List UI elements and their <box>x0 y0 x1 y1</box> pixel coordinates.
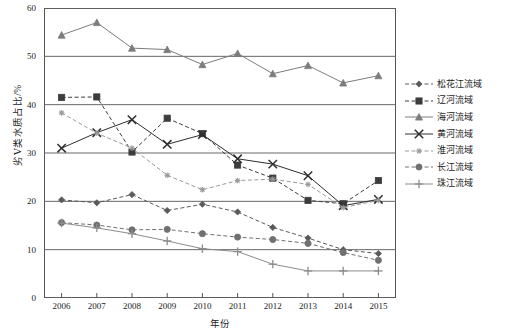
legend-label: 长江流域 <box>437 163 473 172</box>
x-tick-label: 2006 <box>42 301 82 311</box>
chart-figure: 劣Ⅴ类水质占比/% 年份 0102030405060 2006200720082… <box>0 0 515 336</box>
y-tick-label: 10 <box>10 245 36 255</box>
data-point <box>199 231 205 237</box>
data-point <box>305 182 311 188</box>
data-point <box>94 130 100 136</box>
legend-label: 珠江流域 <box>437 179 473 188</box>
legend-item-3[interactable]: 黄河流域 <box>404 126 515 143</box>
data-point <box>57 144 65 152</box>
data-point <box>235 234 241 240</box>
data-point <box>270 236 276 242</box>
diamond-marker-icon <box>404 77 434 91</box>
x-tick-label: 2009 <box>147 301 187 311</box>
legend-label: 辽河流域 <box>437 96 473 105</box>
data-point <box>129 191 135 197</box>
data-point <box>94 200 100 206</box>
data-point <box>339 267 347 275</box>
legend-item-5[interactable]: 长江流域 <box>404 159 515 176</box>
data-point <box>163 237 171 245</box>
data-point <box>164 226 170 232</box>
data-point <box>269 260 277 268</box>
x-tick-label: 2007 <box>77 301 117 311</box>
data-point <box>58 32 65 39</box>
data-point <box>199 201 205 207</box>
series-line <box>62 120 379 206</box>
series-2 <box>58 19 382 86</box>
data-point <box>304 267 312 275</box>
data-point <box>376 198 382 204</box>
data-point <box>375 257 381 263</box>
asterisk-marker-icon <box>404 144 434 158</box>
legend-label: 黄河流域 <box>437 130 473 139</box>
x-tick-label: 2011 <box>218 301 258 311</box>
legend-label: 海河流域 <box>437 113 473 122</box>
legend-item-6[interactable]: 珠江流域 <box>404 176 515 193</box>
data-point <box>416 81 422 87</box>
x-tick-label: 2010 <box>182 301 222 311</box>
x-tick-label: 2015 <box>358 301 398 311</box>
series-4 <box>59 110 381 210</box>
data-point <box>233 247 241 255</box>
series-3 <box>57 115 382 209</box>
data-point <box>304 172 312 180</box>
x-axis-tick-labels: 2006200720082009201020112012201320142015 <box>0 301 515 317</box>
plus-marker-icon <box>404 177 434 191</box>
series-line <box>62 195 379 254</box>
data-point <box>128 115 136 123</box>
series-1 <box>59 94 382 207</box>
data-point <box>375 72 382 79</box>
data-point <box>374 267 382 275</box>
data-point <box>340 249 346 255</box>
chart-legend: 松花江流域辽河流域海河流域黄河流域淮河流域长江流域珠江流域 <box>404 76 515 192</box>
series-6 <box>57 219 382 275</box>
y-tick-label: 60 <box>10 3 36 13</box>
data-point <box>375 177 381 183</box>
data-point <box>163 140 171 148</box>
x-axis-title: 年份 <box>0 316 440 330</box>
series-line <box>62 223 379 261</box>
legend-item-4[interactable]: 淮河流域 <box>404 142 515 159</box>
legend-item-1[interactable]: 辽河流域 <box>404 93 515 110</box>
data-point <box>93 19 100 26</box>
x-tick-label: 2008 <box>112 301 152 311</box>
data-point <box>416 148 422 154</box>
data-point <box>235 209 241 215</box>
series-line <box>62 223 379 271</box>
data-point <box>416 164 422 170</box>
x-tick-label: 2014 <box>323 301 363 311</box>
data-point <box>164 115 170 121</box>
data-point <box>164 207 170 213</box>
plot-area <box>44 8 396 298</box>
y-axis-tick-labels: 0102030405060 <box>6 0 36 336</box>
data-point <box>270 224 276 230</box>
series-line <box>62 97 379 204</box>
x-tick-label: 2013 <box>288 301 328 311</box>
data-point <box>198 245 206 253</box>
cross-marker-icon <box>404 127 434 141</box>
legend-item-0[interactable]: 松花江流域 <box>404 76 515 93</box>
data-point <box>340 205 346 211</box>
data-point <box>235 162 241 168</box>
data-point <box>270 176 276 182</box>
y-tick-label: 40 <box>10 100 36 110</box>
series-line <box>62 113 379 208</box>
y-tick-label: 30 <box>10 148 36 158</box>
data-point <box>200 187 206 193</box>
data-point <box>234 50 241 57</box>
data-point <box>164 172 170 178</box>
data-point <box>305 240 311 246</box>
legend-item-2[interactable]: 海河流域 <box>404 109 515 126</box>
legend-label: 松花江流域 <box>437 80 482 89</box>
data-point <box>57 219 65 227</box>
data-point <box>305 197 311 203</box>
data-point <box>59 94 65 100</box>
data-point <box>59 110 65 116</box>
data-point <box>305 62 312 69</box>
triangle-marker-icon <box>404 110 434 124</box>
data-point <box>94 94 100 100</box>
chart-canvas <box>44 8 396 298</box>
data-point <box>129 145 135 151</box>
y-tick-label: 20 <box>10 196 36 206</box>
data-point <box>199 61 206 68</box>
legend-label: 淮河流域 <box>437 146 473 155</box>
